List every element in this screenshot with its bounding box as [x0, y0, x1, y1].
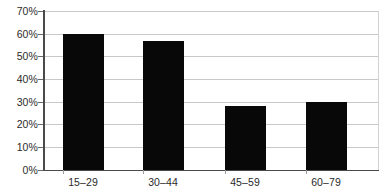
y-tick-label-40: 40%	[0, 73, 38, 85]
x-tick-mark-1	[143, 170, 144, 174]
y-tick-label-70: 70%	[0, 5, 38, 17]
y-tick-label-60: 60%	[0, 28, 38, 40]
y-tick-label-20: 20%	[0, 118, 38, 130]
bar-60-79	[306, 102, 347, 170]
bar-30-44	[143, 41, 184, 170]
y-tick-label-10: 10%	[0, 141, 38, 153]
x-axis-line	[44, 170, 379, 172]
x-tick-label-45-59: 45–59	[205, 176, 285, 188]
x-tick-label-15-29: 15–29	[43, 176, 123, 188]
x-tick-mark-2	[225, 170, 226, 174]
x-tick-mark-0	[63, 170, 64, 174]
plot-area	[44, 11, 379, 170]
x-tick-mark-3	[306, 170, 307, 174]
x-tick-label-30-44: 30–44	[123, 176, 203, 188]
plot-right-border	[378, 11, 379, 170]
y-axis-line	[43, 10, 45, 171]
y-tick-label-30: 30%	[0, 96, 38, 108]
gridline-70	[44, 11, 379, 12]
bar-45-59	[225, 106, 266, 170]
y-tick-label-50: 50%	[0, 50, 38, 62]
x-tick-label-60-79: 60–79	[286, 176, 366, 188]
bar-15-29	[63, 34, 104, 170]
bar-chart: 70% 60% 50% 40% 30% 20% 10% 0%	[0, 0, 386, 194]
y-tick-label-0: 0%	[0, 164, 38, 176]
